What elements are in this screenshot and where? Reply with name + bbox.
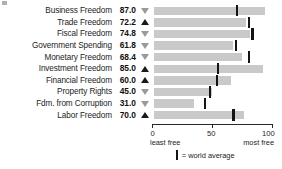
chart-row: Government Spending61.8 (0, 40, 282, 52)
trend-down-icon (139, 31, 150, 37)
row-value: 72.2 (115, 18, 136, 27)
world-average-mark (209, 86, 211, 97)
axis-tick-label-0: 0 (151, 129, 155, 138)
world-average-marker-icon (176, 150, 178, 160)
chart-axis: 0 50 100 least free most free = world av… (152, 124, 273, 169)
trend-down-icon (139, 8, 150, 14)
score-bar (154, 41, 233, 49)
trend-down-icon (139, 54, 150, 60)
axis-tick-50 (212, 124, 213, 128)
chart-legend: = world average (176, 150, 235, 160)
row-label: Trade Freedom (0, 18, 112, 27)
world-average-mark (204, 98, 206, 109)
row-plot (154, 51, 282, 63)
trend-up-icon (139, 19, 150, 25)
world-average-mark (232, 109, 234, 120)
row-value: 87.0 (115, 6, 136, 15)
score-bar (154, 76, 231, 84)
world-average-mark (251, 28, 253, 39)
trend-up-icon (139, 66, 150, 72)
row-label: Investment Freedom (0, 64, 112, 73)
axis-tick-label-50: 50 (207, 129, 215, 138)
axis-caption-least-free: least free (150, 138, 180, 147)
score-bar (154, 53, 242, 61)
row-label: Business Freedom (0, 6, 112, 15)
score-bar (154, 7, 265, 15)
row-value: 85.0 (115, 64, 136, 73)
row-plot (154, 109, 282, 121)
world-average-mark (248, 51, 250, 62)
score-bar (154, 88, 212, 96)
row-label: Fdm. from Corruption (0, 99, 112, 108)
chart-row: Monetary Freedom68.4 (0, 51, 282, 63)
trend-down-icon (139, 43, 150, 49)
trend-up-icon (139, 112, 150, 118)
world-average-mark (236, 5, 238, 16)
row-value: 70.0 (115, 111, 136, 120)
row-value: 45.0 (115, 87, 136, 96)
economic-freedom-bar-chart: Business Freedom87.0Trade Freedom72.2Fis… (0, 0, 282, 169)
row-label: Property Rights (0, 87, 112, 96)
chart-row: Property Rights45.0 (0, 86, 282, 98)
axis-tick-100 (272, 124, 273, 128)
world-average-mark (217, 63, 219, 74)
row-label: Fiscal Freedom (0, 29, 112, 38)
chart-row: Financial Freedom60.0 (0, 75, 282, 87)
legend-label: = world average (182, 151, 235, 160)
row-value: 74.8 (115, 29, 136, 38)
row-plot (154, 63, 282, 75)
row-plot (154, 40, 282, 52)
row-value: 31.0 (115, 99, 136, 108)
row-value: 60.0 (115, 76, 136, 85)
score-bar (154, 65, 263, 73)
trend-down-icon (139, 101, 150, 107)
chart-row: Fiscal Freedom74.8 (0, 28, 282, 40)
world-average-mark (235, 40, 237, 51)
row-plot (154, 17, 282, 29)
row-label: Government Spending (0, 41, 112, 50)
trend-up-icon (139, 77, 150, 83)
chart-row: Labor Freedom70.0 (0, 109, 282, 121)
axis-caption-most-free: most free (243, 138, 274, 147)
trend-down-icon (139, 89, 150, 95)
row-label: Financial Freedom (0, 76, 112, 85)
row-plot (154, 75, 282, 87)
chart-rows: Business Freedom87.0Trade Freedom72.2Fis… (0, 5, 282, 121)
row-label: Labor Freedom (0, 111, 112, 120)
row-value: 68.4 (115, 53, 136, 62)
world-average-mark (248, 17, 250, 28)
row-plot (154, 86, 282, 98)
axis-tick-label-100: 100 (262, 129, 275, 138)
row-plot (154, 28, 282, 40)
chart-row: Business Freedom87.0 (0, 5, 282, 17)
row-plot (154, 5, 282, 17)
score-bar (154, 30, 250, 38)
row-plot (154, 98, 282, 110)
world-average-mark (216, 75, 218, 86)
row-label: Monetary Freedom (0, 53, 112, 62)
row-value: 61.8 (115, 41, 136, 50)
chart-row: Fdm. from Corruption31.0 (0, 98, 282, 110)
chart-row: Trade Freedom72.2 (0, 17, 282, 29)
score-bar (154, 18, 246, 26)
score-bar (154, 99, 194, 107)
score-bar (154, 111, 244, 119)
chart-row: Investment Freedom85.0 (0, 63, 282, 75)
axis-tick-0 (152, 124, 153, 128)
